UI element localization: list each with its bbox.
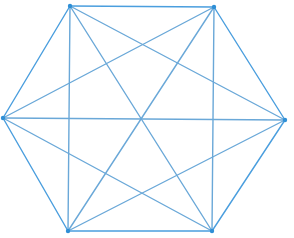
graph-vertex-top-right xyxy=(212,5,216,9)
complete-graph-k6-figure xyxy=(0,0,294,238)
graph-vertex-bottom-left xyxy=(66,229,70,233)
graph-vertex-top-left xyxy=(68,4,72,8)
graph-vertex-right xyxy=(283,118,287,122)
graph-vertex-bottom-right xyxy=(210,229,214,233)
graph-vertex-left xyxy=(1,116,5,120)
graph-edge-v1-v2 xyxy=(70,6,214,7)
